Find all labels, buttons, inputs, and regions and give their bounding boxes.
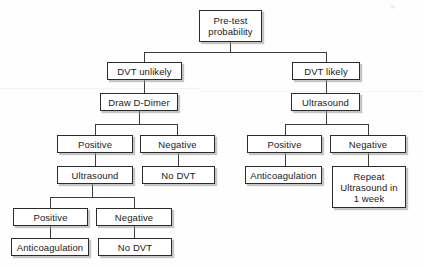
connector-neg-l1-stem	[178, 153, 179, 166]
connector-pretest-stem	[230, 42, 231, 52]
connector-to-pos-l1	[95, 124, 96, 135]
node-ultrasound-r1[interactable]: Ultrasound	[291, 93, 360, 111]
connector-ddimer-bar	[95, 124, 178, 125]
connector-us-l2-stem	[92, 184, 93, 197]
node-no-dvt-l2[interactable]: No DVT	[98, 238, 172, 256]
connector-pos-l1-stem	[95, 153, 96, 166]
connector-pos-l2-stem	[50, 226, 51, 238]
node-dvt-likely[interactable]: DVT likely	[292, 62, 360, 80]
connector-ddimer-stem	[139, 111, 140, 124]
node-ultrasound-l2[interactable]: Ultrasound	[57, 166, 133, 184]
node-neg-r1[interactable]: Negative	[330, 135, 406, 153]
node-no-dvt-l1[interactable]: No DVT	[142, 166, 215, 184]
connector-to-neg-l1	[177, 124, 178, 135]
node-repeat-us[interactable]: Repeat Ultrasound in 1 week	[332, 166, 406, 208]
scanner-streak-right	[200, 91, 423, 92]
node-pos-r1[interactable]: Positive	[247, 135, 322, 153]
node-pretest[interactable]: Pre-test probability	[199, 10, 262, 42]
scanner-streak-left	[0, 88, 200, 89]
connector-neg-l2-stem	[134, 226, 135, 238]
connector-neg-r1-stem	[368, 153, 369, 166]
connector-likely-stem	[326, 80, 327, 93]
connector-to-pos-r1	[285, 124, 286, 135]
node-pos-l1[interactable]: Positive	[57, 135, 133, 153]
connector-us-l2-bar	[50, 197, 134, 198]
flowchart-canvas: ✶ Pre-test probabilityDVT unlikelyDVT li…	[0, 0, 423, 268]
node-draw-d-dimer[interactable]: Draw D-Dimer	[100, 93, 178, 111]
corner-speck-icon: ✶	[389, 2, 397, 12]
connector-to-pos-l2	[50, 197, 51, 208]
connector-to-dvt-likely	[326, 52, 327, 62]
connector-to-neg-r1	[368, 124, 369, 135]
node-neg-l2[interactable]: Negative	[96, 208, 172, 226]
connector-to-neg-l2	[134, 197, 135, 208]
node-dvt-unlikely[interactable]: DVT unlikely	[107, 62, 182, 80]
connector-us-r1-bar	[285, 124, 368, 125]
node-neg-l1[interactable]: Negative	[140, 135, 215, 153]
connector-unlikely-stem	[144, 80, 145, 93]
connector-pos-r1-stem	[285, 153, 286, 166]
node-pos-l2[interactable]: Positive	[13, 208, 88, 226]
connector-us-r1-stem	[326, 111, 327, 124]
connector-pretest-bar	[144, 52, 326, 53]
node-anticoag-l1[interactable]: Anticoagulation	[11, 238, 89, 256]
connector-to-dvt-unlikely	[144, 52, 145, 62]
node-anticoag-r1[interactable]: Anticoagulation	[245, 166, 322, 184]
